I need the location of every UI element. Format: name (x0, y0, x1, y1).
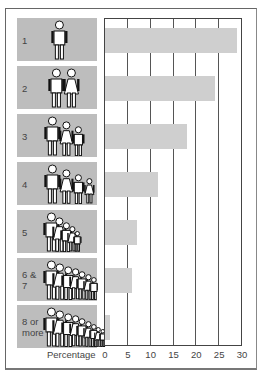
x-tick-label: 10 (145, 349, 156, 360)
person-icon (63, 68, 80, 108)
person-icon (89, 277, 99, 300)
household-panel: 4 (17, 162, 97, 205)
bar (105, 76, 215, 101)
household-panel: 6 &7 (17, 258, 97, 301)
x-tick-label: 5 (125, 349, 130, 360)
gridline (195, 19, 196, 345)
x-tick-label: 25 (214, 349, 225, 360)
x-tick-label: 30 (237, 349, 248, 360)
household-size-label: 4 (22, 178, 27, 189)
bar (105, 315, 110, 340)
gridline (173, 19, 174, 345)
x-tick-label: 0 (102, 349, 107, 360)
household-panel: 1 (17, 18, 97, 61)
person-icon (73, 231, 82, 252)
plot-area (104, 18, 242, 346)
household-panel: 3 (17, 114, 97, 157)
gridline (218, 19, 219, 345)
x-tick-label: 20 (191, 349, 202, 360)
household-size-label: 1 (22, 34, 27, 45)
bar (105, 28, 237, 53)
person-icon (51, 20, 68, 60)
household-size-label: 6 &7 (22, 269, 36, 291)
bar (105, 220, 137, 245)
household-size-label: 2 (22, 82, 27, 93)
household-size-label: 3 (22, 130, 27, 141)
bar (105, 172, 158, 197)
bar (105, 124, 187, 149)
x-tick-label: 15 (168, 349, 179, 360)
household-panel: 8 ormore (17, 305, 97, 348)
household-panel: 5 (17, 210, 97, 253)
household-size-label: 8 ormore (22, 316, 44, 338)
bar (105, 268, 132, 293)
x-axis-label: Percentage (47, 349, 96, 360)
household-size-label: 5 (22, 226, 27, 237)
household-panel: 2 (17, 66, 97, 109)
person-icon (72, 126, 85, 156)
person-icon (84, 178, 95, 204)
